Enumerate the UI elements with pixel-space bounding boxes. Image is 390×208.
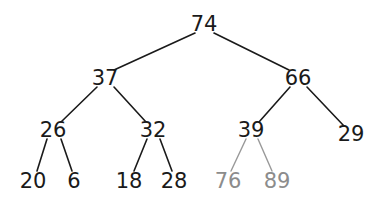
tree-edge-n39-n76 [231,139,246,171]
tree-node-18: 18 [116,171,143,192]
tree-node-66: 66 [285,68,312,89]
tree-node-32: 32 [140,120,167,141]
tree-edge-n26-n6 [61,139,72,171]
tree-node-6: 6 [67,171,80,192]
tree-node-29: 29 [338,124,365,145]
tree-edge-n74-n66 [214,33,289,70]
tree-edge-n26-n20 [37,139,47,171]
tree-node-37: 37 [92,68,119,89]
tree-node-39: 39 [238,120,265,141]
tree-node-89: 89 [264,171,291,192]
tree-edge-n32-n28 [160,139,172,171]
binary-tree-figure: 7437662632392920618287689 [0,0,390,208]
tree-edge-n39-n89 [258,139,272,171]
tree-edge-n66-n29 [307,87,344,126]
tree-node-76: 76 [215,171,242,192]
tree-node-74: 74 [191,14,218,35]
tree-edge-n37-n26 [61,87,97,122]
tree-node-20: 20 [20,171,47,192]
tree-edge-n74-n37 [114,33,195,70]
tree-node-26: 26 [40,120,67,141]
tree-edge-n32-n18 [134,139,147,171]
tree-node-28: 28 [161,171,188,192]
